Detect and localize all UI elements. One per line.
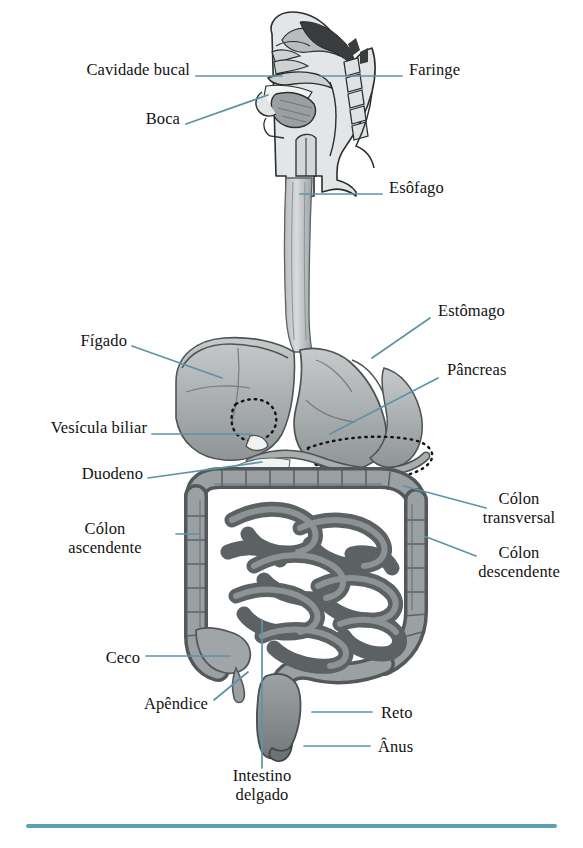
label-colon-ascendente: Cólon ascendente — [40, 519, 170, 557]
head-sagittal-section — [256, 12, 375, 197]
label-cavidade-bucal: Cavidade bucal — [0, 60, 190, 79]
label-anus: Ânus — [378, 737, 413, 756]
label-intestino-delgado: Intestino delgado — [198, 766, 326, 804]
bottom-rule — [26, 824, 557, 828]
label-apendice: Apêndice — [0, 694, 208, 713]
appendix-shape — [233, 668, 245, 703]
label-esofago: Esôfago — [389, 178, 444, 197]
label-vesicula-biliar: Vesícula biliar — [0, 418, 147, 437]
label-colon-ascendente-line2: ascendente — [40, 538, 170, 557]
label-duodeno: Duodeno — [0, 464, 143, 483]
label-faringe: Faringe — [409, 60, 460, 79]
label-pancreas: Pâncreas — [447, 360, 506, 379]
label-intestino-delgado-line2: delgado — [198, 785, 326, 804]
label-colon-transversal-line1: Cólon — [460, 489, 578, 508]
label-reto: Reto — [381, 703, 413, 722]
rectum-shape — [257, 674, 301, 758]
esophagus-tube — [285, 178, 313, 352]
label-colon-descendente-line2: descendente — [458, 562, 580, 581]
leader-boca — [186, 95, 268, 124]
label-colon-descendente-line1: Cólon — [458, 543, 580, 562]
leader-estomago — [372, 318, 430, 358]
label-ceco: Ceco — [0, 648, 140, 667]
label-colon-ascendente-line1: Cólon — [40, 519, 170, 538]
label-colon-descendente: Cólon descendente — [458, 543, 580, 581]
label-colon-transversal-line2: transversal — [460, 508, 578, 527]
label-intestino-delgado-line1: Intestino — [198, 766, 326, 785]
abdominal-organs — [176, 338, 432, 484]
label-boca: Boca — [0, 109, 180, 128]
label-colon-transversal: Cólon transversal — [460, 489, 578, 527]
label-figado: Fígado — [0, 331, 127, 350]
label-estomago: Estômago — [438, 301, 505, 320]
digestive-system-diagram: Cavidade bucal Boca Faringe Esôfago Fíga… — [0, 0, 583, 848]
